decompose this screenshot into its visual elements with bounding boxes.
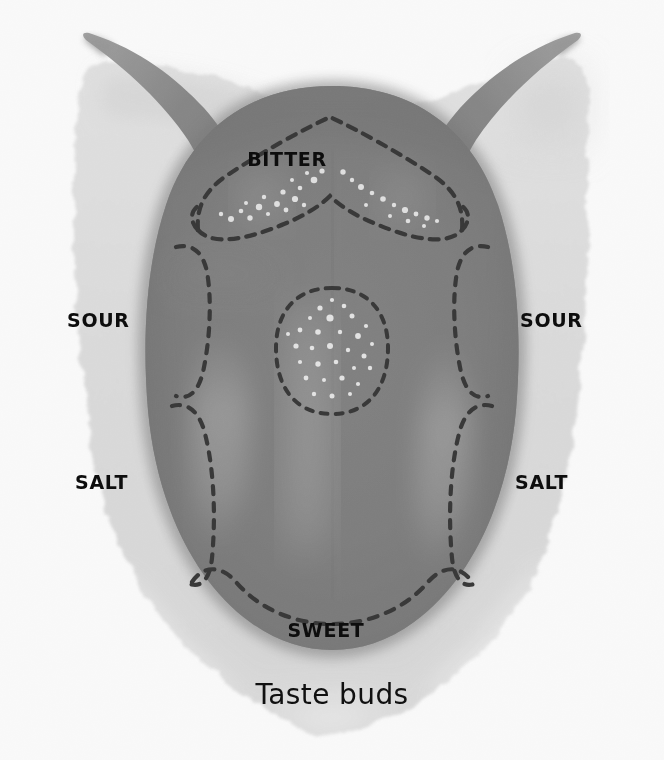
- zone-label-salt-right: SALT: [515, 473, 568, 492]
- figure-canvas: BITTER SOUR SOUR SALT SALT SWEET Taste b…: [0, 0, 664, 760]
- zone-label-sour-right: SOUR: [520, 311, 583, 330]
- figure-caption: Taste buds: [255, 681, 408, 709]
- zone-label-bitter: BITTER: [247, 150, 327, 169]
- zone-label-salt-left: SALT: [75, 473, 128, 492]
- tongue-diagram: [0, 0, 664, 760]
- zone-label-sweet: SWEET: [287, 621, 364, 640]
- plate-grain: [0, 0, 664, 760]
- zone-label-sour-left: SOUR: [67, 311, 130, 330]
